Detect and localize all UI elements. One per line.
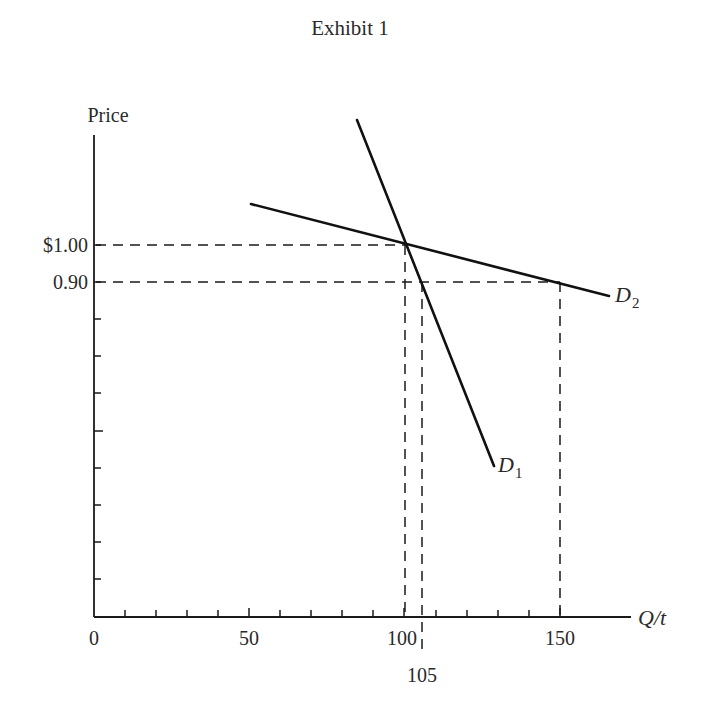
x-tick-label-0: 0 <box>89 627 99 649</box>
svg-text:2: 2 <box>632 295 640 311</box>
x-tick-label-105: 105 <box>407 664 437 686</box>
x-axis-ticks <box>125 608 560 617</box>
chart-title: Exhibit 1 <box>311 16 389 40</box>
y-axis-label: Price <box>87 104 128 126</box>
y-tick-label-0-90: 0.90 <box>53 271 88 293</box>
reference-lines <box>96 245 560 655</box>
axes <box>94 135 631 617</box>
demand-curve-d1 <box>357 120 494 466</box>
svg-text:D: D <box>497 452 514 477</box>
x-axis-label: Q/t <box>638 605 667 630</box>
x-tick-label-50: 50 <box>239 627 259 649</box>
svg-text:1: 1 <box>515 465 523 481</box>
x-tick-label-100: 100 <box>387 627 417 649</box>
curve-label-d2: D 2 <box>614 282 640 311</box>
demand-curves <box>251 120 609 466</box>
x-tick-label-150: 150 <box>545 627 575 649</box>
demand-elasticity-chart: Exhibit 1 Price <box>0 0 701 717</box>
svg-text:D: D <box>614 282 631 307</box>
y-axis-ticks <box>94 245 103 579</box>
curve-label-d1: D 1 <box>497 452 523 481</box>
y-tick-label-1-00: $1.00 <box>43 234 88 256</box>
